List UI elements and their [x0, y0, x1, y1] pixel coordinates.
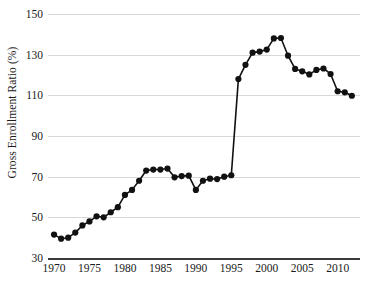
data-point: [58, 236, 64, 242]
data-point: [285, 53, 291, 59]
data-point: [335, 88, 341, 94]
data-point: [349, 93, 355, 99]
data-point: [101, 214, 107, 220]
data-point: [136, 178, 142, 184]
data-point: [221, 174, 227, 180]
data-point: [257, 49, 263, 55]
data-point: [200, 178, 206, 184]
series-markers: [51, 35, 355, 242]
data-point: [193, 187, 199, 193]
data-point: [249, 50, 255, 56]
data-point: [179, 173, 185, 179]
data-point: [122, 192, 128, 198]
data-point: [313, 67, 319, 73]
data-point: [235, 76, 241, 82]
data-point: [214, 176, 220, 182]
data-point: [306, 71, 312, 77]
data-point: [320, 65, 326, 71]
series-line: [54, 38, 352, 239]
data-point: [271, 35, 277, 41]
data-point: [79, 222, 85, 228]
data-point: [327, 71, 333, 77]
data-series-layer: [0, 0, 371, 291]
data-point: [150, 166, 156, 172]
data-point: [115, 204, 121, 210]
chart-container: Gross Enrollment Ratio (%) 3050709011013…: [0, 0, 371, 291]
data-point: [93, 213, 99, 219]
data-point: [129, 187, 135, 193]
data-point: [72, 229, 78, 235]
data-point: [278, 35, 284, 41]
data-point: [264, 46, 270, 52]
data-point: [207, 176, 213, 182]
data-point: [342, 89, 348, 95]
data-point: [228, 172, 234, 178]
data-point: [292, 66, 298, 72]
data-point: [65, 235, 71, 241]
data-point: [242, 62, 248, 68]
data-point: [171, 174, 177, 180]
data-point: [86, 218, 92, 224]
data-point: [51, 232, 57, 238]
data-point: [186, 173, 192, 179]
data-point: [164, 165, 170, 171]
data-point: [143, 167, 149, 173]
data-point: [157, 166, 163, 172]
data-point: [108, 209, 114, 215]
data-point: [299, 68, 305, 74]
